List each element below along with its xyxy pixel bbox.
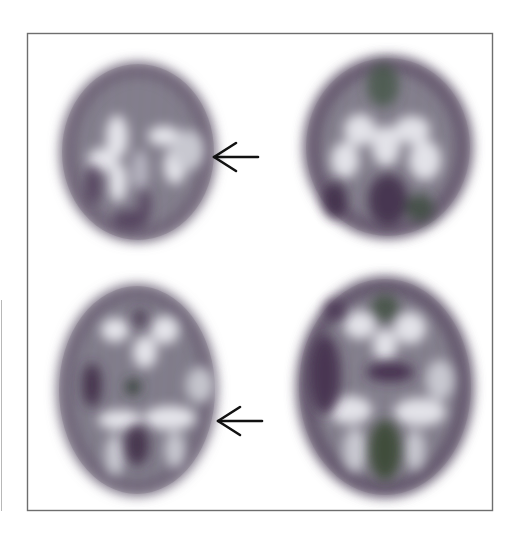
scan-figure [0, 0, 519, 533]
left-edge-line [1, 300, 2, 511]
